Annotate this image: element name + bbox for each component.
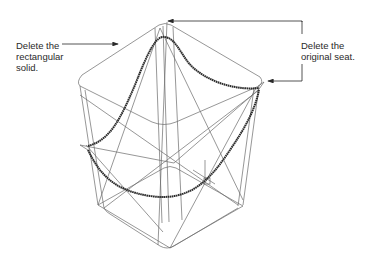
seat-curves <box>88 37 259 197</box>
leader-arrows <box>62 21 302 81</box>
chair-wireframe-drawing <box>0 0 371 261</box>
diagram-canvas: Delete the rectangular solid. Delete the… <box>0 0 371 261</box>
